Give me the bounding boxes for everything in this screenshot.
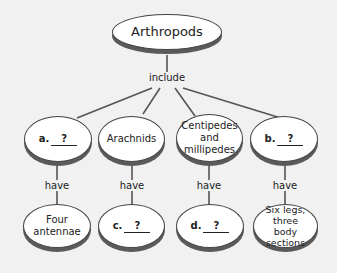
root-node-arthropods: Arthropods: [112, 14, 222, 50]
link-label-have-a: have: [44, 180, 71, 191]
group-node-a: a.?: [24, 116, 92, 162]
link-label-include: include: [148, 72, 186, 83]
group-label-arachnids: Arachnids: [98, 116, 165, 162]
group-node-b: b.?: [250, 116, 318, 162]
blank-answer-d: d.?: [191, 220, 230, 233]
blank-answer-a: a.?: [39, 133, 78, 146]
trait-node-four-antennae: Four antennae: [23, 204, 91, 248]
trait-label-four-antennae: Four antennae: [23, 204, 91, 248]
blank-answer-b: b.?: [265, 133, 304, 146]
trait-node-c: c.?: [98, 204, 165, 248]
concept-map: Arthropods include a.? Arachnids Centipe…: [0, 0, 337, 273]
link-label-have-centipedes: have: [196, 180, 223, 191]
group-label-centipedes: Centipedes and millipedes: [176, 114, 243, 162]
group-node-arachnids: Arachnids: [98, 116, 165, 162]
trait-node-d: d.?: [176, 204, 244, 248]
trait-label-six-legs: Six legs, three body sections: [253, 204, 318, 248]
link-label-have-arachnids: have: [119, 180, 146, 191]
link-label-have-b: have: [272, 180, 299, 191]
blank-answer-c: c.?: [113, 220, 151, 233]
trait-node-six-legs: Six legs, three body sections: [253, 204, 318, 248]
root-node-label: Arthropods: [112, 14, 222, 50]
group-node-centipedes: Centipedes and millipedes: [176, 114, 243, 162]
